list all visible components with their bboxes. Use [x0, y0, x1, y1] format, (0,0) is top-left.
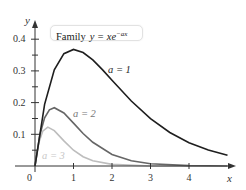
curve-label-a3: a = 3 — [42, 150, 65, 161]
y-tick-label: 0.1 — [13, 129, 26, 140]
x-tick-label: 2 — [110, 172, 115, 183]
x-axis-label: x — [226, 172, 232, 184]
y-tick-label: 0.2 — [13, 97, 26, 108]
y-axis-label: y — [24, 14, 30, 26]
x-tick-label: 1 — [71, 172, 76, 183]
x-axis-arrow-icon — [228, 163, 236, 169]
x-origin-label: 0 — [27, 172, 32, 183]
y-tick-label: 0.3 — [13, 65, 26, 76]
legend-equation-exponent: −ax — [116, 29, 127, 37]
legend-equation-base: y = xe — [90, 31, 116, 42]
curve-label-a1: a = 1 — [108, 64, 131, 75]
y-axis-arrow-icon — [32, 20, 38, 28]
x-tick-label: 3 — [148, 172, 153, 183]
y-tick-label: 0.4 — [13, 33, 26, 44]
legend-family-label: Family — [56, 31, 86, 42]
x-tick-label: 4 — [187, 172, 192, 183]
chart-legend-title: Familyy = xe−ax — [50, 25, 143, 41]
curve-a1 — [35, 49, 228, 166]
curve-label-a2: a = 2 — [73, 108, 97, 119]
legend-equation: y = xe−ax — [90, 31, 128, 42]
